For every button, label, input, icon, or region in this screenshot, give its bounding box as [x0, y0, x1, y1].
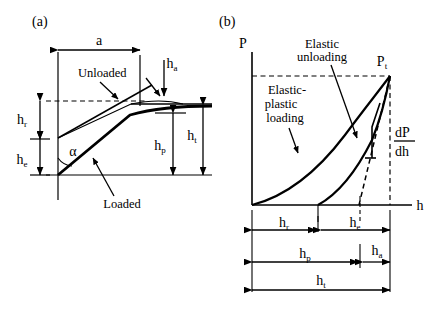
slope-numerator-label: dP [395, 125, 410, 140]
unloaded-profile-upper [58, 85, 152, 138]
dimension-ha-label-b: ha [372, 243, 383, 260]
dimension-hp-label-b: hp [299, 246, 311, 263]
unloaded-annotation-label: Unloaded [78, 66, 127, 80]
elastic-plastic-annotation-leader [289, 128, 298, 153]
elastic-unloading-annotation-line2: unloading [297, 50, 348, 64]
unloaded-annotation-leader [100, 82, 118, 99]
slope-denominator-label: dh [395, 144, 409, 159]
elastic-plastic-annotation-line3: loading [266, 111, 304, 125]
dimension-hr-label-b: hr [279, 215, 289, 232]
figure-svg: (a) a α Unloaded [0, 0, 437, 312]
panel-b-label: (b) [219, 14, 236, 30]
dimension-ha-label-a: ha [167, 56, 178, 73]
dimension-hr-label-a: hr [17, 112, 27, 129]
elastic-plastic-annotation-line1: Elastic- [268, 83, 306, 97]
loaded-annotation-label: Loaded [103, 197, 141, 211]
elastic-plastic-annotation-line2: plastic [265, 97, 298, 111]
p-axis-label: P [239, 36, 247, 51]
dimension-ht-label-b: ht [316, 273, 326, 290]
peak-load-label: Pt [377, 54, 388, 71]
figure-container: (a) a α Unloaded [0, 0, 437, 312]
loaded-annotation-leader [93, 158, 114, 196]
elastic-unloading-annotation-leader [331, 65, 357, 138]
panel-b: (b) P h dP dh [219, 14, 424, 292]
panel-a-label: (a) [32, 14, 48, 30]
h-axis-label: h [417, 198, 424, 213]
dimension-he-label-b: he [350, 215, 361, 232]
panel-a: (a) a α Unloaded [17, 14, 213, 211]
unloaded-profile-lower [58, 101, 183, 138]
dimension-hp-label-a: hp [154, 138, 166, 155]
dimension-he-label-a: he [17, 152, 28, 169]
dimension-a-label: a [96, 33, 103, 48]
alpha-angle-label: α [69, 144, 77, 159]
dimension-ht-label-a: ht [187, 128, 197, 145]
elastic-unloading-annotation-line1: Elastic [305, 37, 339, 51]
elastic-unloading-curve [318, 76, 390, 205]
